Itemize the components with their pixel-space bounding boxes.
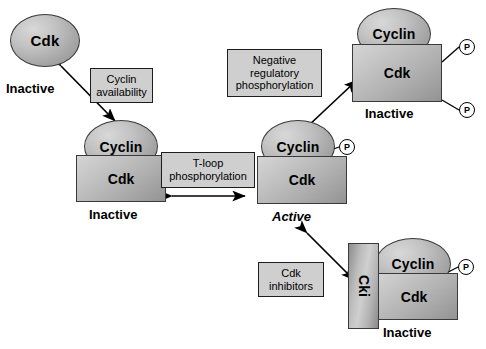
phospho-inactive-cyclin-label: Cyclin — [372, 26, 415, 42]
label-box-cyclin-availability: Cyclin availability — [90, 68, 153, 103]
complex-phospho-inactive-cdk-rect: Cdk — [352, 44, 442, 102]
cki-label: Cki — [355, 275, 371, 297]
cki-cyclin-label: Cyclin — [391, 256, 434, 272]
complex-active-cdk-rect: Cdk — [257, 156, 347, 204]
active-cdk-label: Cdk — [289, 172, 315, 188]
cyclin-availability-line1: Cyclin — [107, 73, 137, 86]
phosphate-icon-top-right-upper: P — [459, 39, 475, 55]
inactive-cyclin-label: Cyclin — [99, 139, 142, 155]
cki-inhibitor-bar: Cki — [348, 243, 379, 329]
t-loop-line1: T-loop — [193, 157, 224, 170]
phospho-inactive-complex-state-caption: Inactive — [365, 106, 413, 121]
cki-cdk-label: Cdk — [401, 289, 427, 305]
label-box-cdk-inhibitors: Cdk inhibitors — [258, 262, 324, 297]
free-cdk-state-caption: Inactive — [6, 81, 54, 96]
complex-free-cdk-ellipse: Cdk — [10, 14, 80, 67]
t-loop-line2: phosphorylation — [169, 170, 247, 183]
active-complex-state-caption: Active — [272, 209, 311, 224]
label-box-t-loop-phosphorylation: T-loop phosphorylation — [161, 152, 255, 188]
cdk-inhibitors-line1: Cdk — [281, 267, 301, 280]
phosphate-connector-tr-lower — [442, 100, 459, 110]
inactive-complex-state-caption: Inactive — [89, 207, 137, 222]
cki-complex-state-caption: Inactive — [383, 325, 431, 340]
negative-regulatory-line1: Negative — [253, 54, 296, 67]
phosphate-icon-top-right-lower: P — [459, 102, 475, 118]
cyclin-availability-line2: availability — [96, 86, 147, 99]
label-box-negative-regulatory-phosphorylation: Negative regulatory phosphorylation — [227, 49, 322, 97]
cdk-inhibitors-line2: inhibitors — [269, 280, 313, 293]
complex-cki-cdk-rect: Cdk — [370, 273, 458, 320]
complex-inactive-cdk-rect: Cdk — [76, 155, 166, 202]
inactive-cdk-label: Cdk — [108, 171, 134, 187]
phosphate-icon-cki: P — [458, 259, 474, 275]
phosphate-connector-tr-upper — [442, 47, 459, 62]
negative-regulatory-line3: phosphorylation — [236, 79, 314, 92]
diagram-canvas: Cdk Inactive Cyclin Cdk Inactive Cyclin … — [0, 0, 486, 349]
negative-regulatory-line2: regulatory — [250, 67, 299, 80]
free-cdk-label: Cdk — [31, 32, 60, 49]
phospho-inactive-cdk-label: Cdk — [384, 65, 410, 81]
phosphate-icon-active: P — [339, 139, 355, 155]
active-cyclin-label: Cyclin — [276, 139, 319, 155]
